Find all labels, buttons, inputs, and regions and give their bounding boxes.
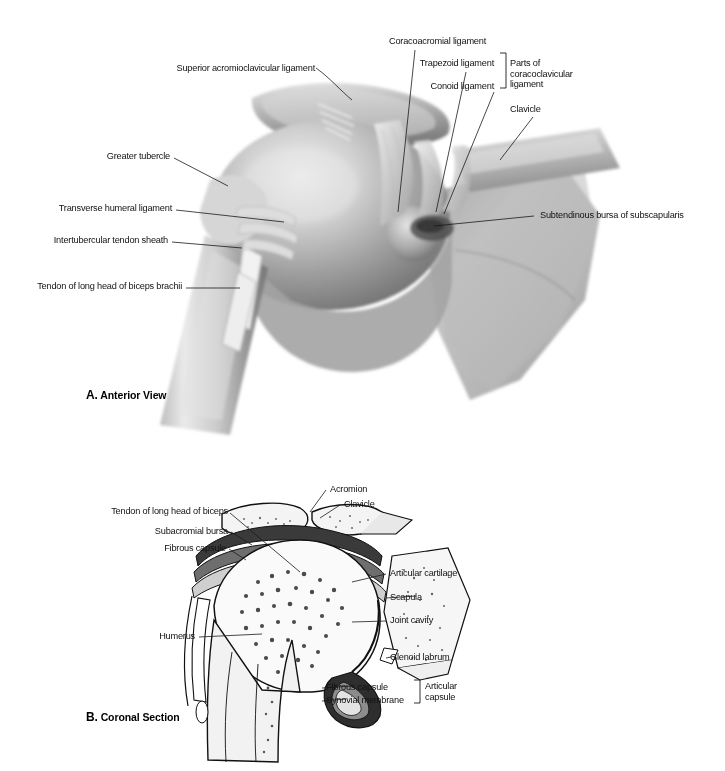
panel-b-caption: B. Coronal Section — [86, 710, 180, 724]
label-greater-tubercle: Greater tubercle — [20, 151, 170, 162]
label-subtendinous-bursa-of-subscapularis: Subtendinous bursa of subscapularis — [540, 210, 684, 221]
panel-a-caption-letter: A. — [86, 388, 98, 402]
articular-capsule-bracket — [414, 680, 420, 703]
label-humerus: Humerus — [110, 631, 195, 642]
panel-a-caption-text: Anterior View — [100, 389, 166, 401]
label-coracoacromial-ligament: Coracoacromial ligament — [389, 36, 486, 47]
coracoclavicular-bracket — [500, 53, 506, 88]
label-synovial-membrane: Synovial membrane — [326, 695, 404, 706]
label-tendon-of-long-head-of-biceps: Tendon of long head of biceps — [60, 506, 228, 517]
label-subacromial-bursa: Subacromial bursa — [80, 526, 228, 537]
label-intertubercular-tendon-sheath: Intertubercular tendon sheath — [20, 235, 168, 246]
label-transverse-humeral-ligament: Transverse humeral ligament — [20, 203, 172, 214]
label-articular-cartilage: Articular cartilage — [390, 568, 457, 579]
label-acromion: Acromion — [330, 484, 367, 495]
anatomy-figure: Superior acromioclavicular ligament Cora… — [0, 0, 725, 771]
label-conoid-ligament: Conoid ligament — [330, 81, 494, 92]
label-articular-capsule: Articular capsule — [425, 681, 471, 702]
label-fibrous-capsule-bottom: Fibrous capsule — [326, 682, 388, 693]
panel-a-caption: A. Anterior View — [86, 388, 166, 402]
label-trapezoid-ligament: Trapezoid ligament — [330, 58, 494, 69]
label-scapula: Scapula — [390, 592, 422, 603]
label-superior-acromioclavicular-ligament: Superior acromioclavicular ligament — [50, 63, 315, 74]
label-joint-cavity: Joint cavity — [390, 615, 433, 626]
label-glenoid-labrum: Glenoid labrum — [390, 652, 450, 663]
label-tendon-of-long-head-of-biceps-brachii: Tendon of long head of biceps brachii — [10, 281, 182, 292]
label-fibrous-capsule-top: Fibrous capsule — [80, 543, 226, 554]
panel-b-illustration — [185, 503, 470, 762]
panel-b-caption-text: Coronal Section — [101, 711, 180, 723]
panel-b-caption-letter: B. — [86, 710, 98, 724]
label-clavicle-panel-b: Clavicle — [344, 499, 375, 510]
label-parts-of-coracoclavicular-ligament: Parts of coracoclavicular ligament — [510, 58, 580, 90]
label-clavicle-panel-a: Clavicle — [510, 104, 541, 115]
panel-a-specimen — [160, 83, 620, 435]
panel-a-illustration — [0, 0, 725, 771]
